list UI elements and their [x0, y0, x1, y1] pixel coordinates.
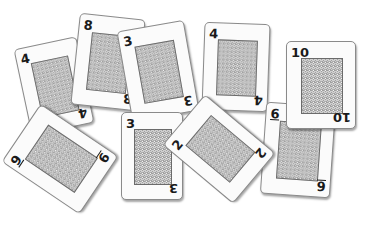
rank-label-top: 4 [19, 52, 31, 67]
card-back-pattern [134, 40, 183, 104]
rank-label-top: 10 [291, 46, 309, 59]
card-back-pattern [185, 115, 255, 183]
rank-label-top: 8 [83, 18, 93, 32]
rank-label-top: 2 [170, 137, 186, 152]
playing-card[interactable]: 44 [201, 22, 270, 112]
rank-label-bottom: 6 [316, 179, 326, 193]
playing-card[interactable]: 99 [1, 104, 118, 215]
rank-label-bottom: 4 [254, 94, 263, 107]
rank-label-top: 4 [209, 27, 218, 40]
rank-label-top: 9 [8, 153, 24, 168]
rank-label-bottom: 10 [333, 111, 351, 124]
rank-label-bottom: 9 [96, 150, 112, 165]
playing-card[interactable]: 33 [121, 112, 183, 200]
rank-label-bottom: 2 [253, 146, 269, 161]
rank-label-top: 3 [122, 34, 133, 48]
card-back-pattern [301, 58, 343, 114]
card-back-pattern [25, 125, 98, 193]
rank-label-top: 3 [126, 117, 135, 130]
rank-label-bottom: 3 [183, 94, 194, 108]
card-back-pattern [216, 39, 258, 96]
rank-label-top: 6 [270, 107, 280, 121]
rank-label-bottom: 4 [77, 106, 89, 121]
playing-card[interactable]: 1010 [286, 41, 356, 129]
card-back-pattern [134, 129, 172, 185]
rank-label-bottom: 3 [169, 182, 178, 195]
playing-card[interactable]: 33 [117, 20, 200, 122]
card-back-pattern [276, 121, 322, 182]
